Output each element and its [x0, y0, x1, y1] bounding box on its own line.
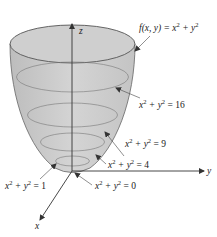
z-axis-label: z [78, 26, 83, 36]
label-4: x2 + y2 = 4 [107, 158, 149, 170]
top-rim [10, 25, 135, 63]
pointer-1 [40, 164, 56, 179]
y-axis-label: y [206, 166, 212, 176]
label-9: x2 + y2 = 9 [124, 137, 166, 149]
x-axis-label: x [34, 221, 40, 231]
label-0: x2 + y2 = 0 [94, 179, 136, 191]
function-label: f(x, y) = x2 + y2 [139, 21, 198, 34]
function-pointer [135, 36, 150, 51]
pointer-0 [75, 173, 92, 185]
paraboloid-diagram: z y x f(x, y) = x2 + y2 x2 + y2 = 16 x2 … [0, 0, 217, 237]
label-16: x2 + y2 = 16 [138, 98, 185, 110]
x-axis [40, 171, 72, 220]
label-1: x2 + y2 = 1 [4, 179, 46, 191]
